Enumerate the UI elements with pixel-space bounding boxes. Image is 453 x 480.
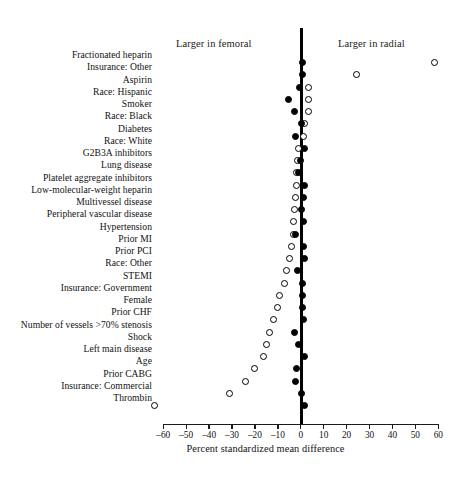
x-axis-tick (231, 424, 232, 429)
x-axis-tick (369, 424, 370, 429)
data-point-filled (299, 280, 306, 287)
x-axis-tick (208, 424, 209, 429)
data-point-filled (291, 108, 298, 115)
data-point-filled (300, 243, 307, 250)
plot-area (0, 0, 453, 480)
data-point-filled (299, 71, 306, 78)
data-point-open (281, 280, 288, 287)
data-point-open (286, 255, 293, 262)
x-axis-tick (392, 424, 393, 429)
data-point-filled (301, 255, 308, 262)
data-point-filled (291, 329, 298, 336)
data-point-open (276, 292, 283, 299)
data-point-filled (296, 84, 303, 91)
data-point-open (283, 267, 290, 274)
x-axis-tick (346, 424, 347, 429)
x-axis-tick-label: 60 (421, 430, 453, 440)
data-point-filled (298, 206, 305, 213)
data-point-open (263, 341, 270, 348)
data-point-open (226, 390, 233, 397)
data-point-filled (301, 145, 308, 152)
data-point-open (242, 378, 249, 385)
data-point-filled (292, 133, 299, 140)
data-point-open (300, 133, 307, 140)
data-point-open (431, 59, 438, 66)
data-point-filled (299, 59, 306, 66)
data-point-open (251, 365, 258, 372)
data-point-filled (292, 231, 299, 238)
x-axis-tick (163, 424, 164, 429)
x-axis-title-text: Percent standardized mean difference (186, 443, 344, 454)
standardized-mean-difference-figure: Larger in femoral Larger in radial Fract… (0, 0, 453, 480)
data-point-open (290, 218, 297, 225)
x-axis-tick (277, 424, 278, 429)
data-point-filled (299, 292, 306, 299)
data-point-open (291, 206, 298, 213)
data-point-open (274, 304, 281, 311)
data-point-filled (301, 182, 308, 189)
data-point-open (305, 108, 312, 115)
data-point-open (288, 243, 295, 250)
x-axis-tick (438, 424, 439, 429)
data-point-filled (292, 378, 299, 385)
x-axis-tick (254, 424, 255, 429)
x-axis-tick (186, 424, 187, 429)
data-point-open (292, 194, 299, 201)
data-point-open (305, 96, 312, 103)
data-point-filled (299, 304, 306, 311)
data-point-filled (301, 353, 308, 360)
data-point-filled (301, 402, 308, 409)
data-point-open (260, 353, 267, 360)
data-point-filled (294, 267, 301, 274)
data-point-filled (297, 157, 304, 164)
data-point-filled (285, 96, 292, 103)
data-point-filled (300, 194, 307, 201)
data-point-open (353, 71, 360, 78)
x-axis-title: Percent standardized mean difference (0, 443, 453, 454)
data-point-open (266, 329, 273, 336)
data-point-filled (298, 390, 305, 397)
x-axis-tick (323, 424, 324, 429)
data-point-filled (300, 316, 307, 323)
data-point-open (151, 402, 158, 409)
data-point-open (270, 316, 277, 323)
x-axis-tick (300, 424, 301, 429)
data-point-filled (295, 341, 302, 348)
data-point-open (293, 182, 300, 189)
x-axis-tick (415, 424, 416, 429)
data-point-filled (300, 218, 307, 225)
data-point-open (305, 84, 312, 91)
